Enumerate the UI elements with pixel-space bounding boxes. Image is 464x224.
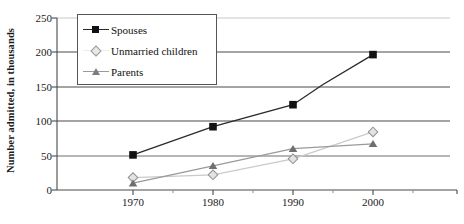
series-parents <box>129 140 378 186</box>
x-tick-label-1990: 1990 <box>263 196 323 208</box>
data-point-spouses-1980 <box>209 123 217 131</box>
x-tick-label-2000: 2000 <box>343 196 403 208</box>
data-point-unmarried-children-1980 <box>208 170 218 180</box>
y-axis-ticks <box>52 18 57 190</box>
x-tick-label-1970: 1970 <box>103 196 163 208</box>
chart-legend: Spouses Unmarried children Parents <box>77 14 217 85</box>
filled-triangle-marker-icon <box>83 65 109 79</box>
data-point-spouses-1970 <box>129 151 137 159</box>
series-line-parents <box>133 144 373 183</box>
series-markers-unmarried-children <box>128 127 378 182</box>
open-diamond-marker-icon <box>83 44 109 58</box>
legend-item-spouses: Spouses <box>78 19 216 40</box>
legend-label-parents: Parents <box>109 66 143 78</box>
series-markers-parents <box>129 140 378 186</box>
line-chart: Number admitted, in thousands 250 200 15… <box>0 0 464 224</box>
plot-area <box>0 0 464 224</box>
legend-item-unmarried-children: Unmarried children <box>78 40 216 61</box>
legend-label-spouses: Spouses <box>109 24 147 36</box>
data-point-unmarried-children-1990 <box>288 154 298 164</box>
series-unmarried-children <box>128 127 378 182</box>
x-tick-label-1980: 1980 <box>183 196 243 208</box>
data-point-spouses-1990 <box>289 101 297 109</box>
data-point-unmarried-children-2000 <box>368 127 378 137</box>
legend-item-parents: Parents <box>78 61 216 82</box>
filled-square-marker-icon <box>83 23 109 37</box>
legend-label-unmarried-children: Unmarried children <box>109 45 197 57</box>
x-axis-ticks <box>133 190 457 195</box>
data-point-spouses-2000 <box>369 51 377 59</box>
series-line-unmarried-children <box>133 132 373 178</box>
